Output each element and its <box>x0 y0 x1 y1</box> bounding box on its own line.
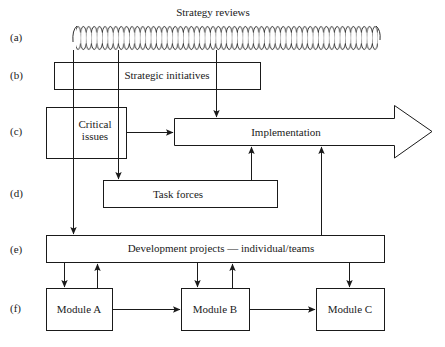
critical-issues-label-line2: issues <box>82 130 108 142</box>
task-forces-label: Task forces <box>153 188 203 200</box>
development-projects-label: Development projects — individual/teams <box>128 242 315 254</box>
row-label-b: (b) <box>10 69 23 81</box>
strategic-initiatives-label: Strategic initiatives <box>124 69 209 81</box>
row-label-a: (a) <box>10 31 22 43</box>
row-label-c: (c) <box>10 125 22 137</box>
critical-issues-label-line1: Critical <box>79 118 112 130</box>
row-label-e: (e) <box>10 243 22 255</box>
row-label-d: (d) <box>10 187 23 199</box>
strategy-reviews-spring <box>73 25 380 51</box>
diagram-canvas <box>0 0 445 347</box>
strategy-reviews-label: Strategy reviews <box>176 6 250 18</box>
connectors <box>65 50 350 310</box>
implementation-label: Implementation <box>251 126 321 138</box>
module-c-label: Module C <box>328 303 372 315</box>
module-a-label: Module A <box>57 303 101 315</box>
row-label-f: (f) <box>10 302 21 314</box>
module-b-label: Module B <box>193 303 237 315</box>
